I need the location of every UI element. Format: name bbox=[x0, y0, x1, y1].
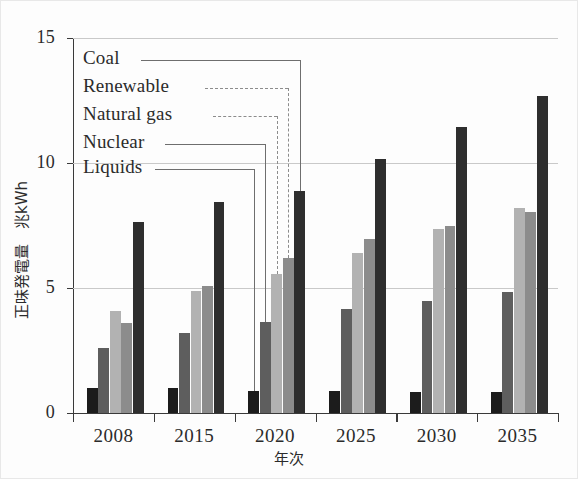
y-tick-label-15: 15 bbox=[15, 27, 55, 48]
callout-leader-v-nuclear bbox=[265, 144, 266, 322]
bar-natural-gas-2025 bbox=[352, 253, 363, 413]
x-tick-mark-2020 bbox=[235, 413, 236, 422]
gridline-y-15 bbox=[73, 38, 558, 39]
callout-leader-v-coal bbox=[300, 60, 301, 191]
callout-label-liquids: Liquids bbox=[83, 156, 142, 178]
bar-natural-gas-2008 bbox=[110, 311, 121, 414]
x-tick-label-2020: 2020 bbox=[230, 425, 320, 447]
bar-liquids-2015 bbox=[168, 388, 179, 413]
bar-renewable-2030 bbox=[445, 226, 456, 414]
x-tick-label-2025: 2025 bbox=[311, 425, 401, 447]
bar-coal-2025 bbox=[375, 159, 386, 413]
bar-renewable-2025 bbox=[364, 239, 375, 413]
bar-natural-gas-2035 bbox=[514, 208, 525, 413]
bar-natural-gas-2015 bbox=[191, 291, 202, 414]
x-tick-mark-2025 bbox=[316, 413, 317, 422]
bar-nuclear-2020 bbox=[260, 322, 271, 413]
x-tick-mark-end bbox=[558, 413, 559, 422]
callout-label-renewable: Renewable bbox=[83, 75, 169, 97]
bar-nuclear-2035 bbox=[502, 292, 513, 413]
y-tick-label-10: 10 bbox=[15, 152, 55, 173]
x-tick-mark-2035 bbox=[477, 413, 478, 422]
gridline-y-10 bbox=[73, 163, 558, 164]
y-tick-label-0: 0 bbox=[15, 402, 55, 423]
callout-leader-h-liquids bbox=[155, 169, 254, 170]
y-tick-mark-15 bbox=[67, 38, 73, 39]
x-tick-label-2035: 2035 bbox=[473, 425, 563, 447]
bar-nuclear-2015 bbox=[179, 333, 190, 413]
x-tick-mark-2008 bbox=[73, 413, 74, 422]
bar-renewable-2035 bbox=[525, 212, 536, 413]
bar-renewable-2020 bbox=[283, 258, 294, 413]
bar-renewable-2008 bbox=[121, 323, 132, 413]
x-tick-label-2008: 2008 bbox=[68, 425, 158, 447]
bar-coal-2020 bbox=[294, 191, 305, 414]
bar-coal-2030 bbox=[456, 127, 467, 413]
y-tick-mark-5 bbox=[67, 288, 73, 289]
bar-natural-gas-2030 bbox=[433, 229, 444, 413]
x-tick-label-2030: 2030 bbox=[392, 425, 482, 447]
gridline-y-5 bbox=[73, 288, 558, 289]
y-tick-label-5: 5 bbox=[15, 277, 55, 298]
y-axis-title: 正味発電量 兆kWh bbox=[10, 150, 31, 350]
x-axis-title: 年次 bbox=[0, 447, 577, 468]
callout-leader-h-natural-gas bbox=[213, 116, 277, 118]
callout-label-nuclear: Nuclear bbox=[83, 131, 145, 153]
bar-nuclear-2008 bbox=[98, 348, 109, 413]
plot-area: 051015200820152020202520302035CoalRenewa… bbox=[73, 38, 558, 413]
callout-leader-v-renewable bbox=[288, 88, 290, 258]
bar-renewable-2015 bbox=[202, 286, 213, 414]
callout-leader-v-liquids bbox=[254, 169, 255, 391]
callout-leader-h-renewable bbox=[205, 88, 288, 90]
callout-label-coal: Coal bbox=[83, 47, 120, 69]
x-tick-mark-2015 bbox=[154, 413, 155, 422]
bar-natural-gas-2020 bbox=[271, 274, 282, 413]
bar-liquids-2030 bbox=[410, 392, 421, 413]
bar-liquids-2025 bbox=[329, 391, 340, 414]
callout-leader-v-natural-gas bbox=[277, 116, 279, 274]
callout-leader-h-coal bbox=[141, 60, 300, 61]
bar-coal-2008 bbox=[133, 222, 144, 413]
bar-nuclear-2030 bbox=[422, 301, 433, 414]
bar-nuclear-2025 bbox=[341, 309, 352, 413]
callout-label-natural-gas: Natural gas bbox=[83, 103, 172, 125]
bar-liquids-2008 bbox=[87, 388, 98, 413]
bar-liquids-2035 bbox=[491, 392, 502, 413]
bar-coal-2015 bbox=[214, 202, 225, 413]
x-tick-mark-2030 bbox=[396, 413, 397, 422]
y-tick-mark-10 bbox=[67, 163, 73, 164]
callout-leader-h-nuclear bbox=[165, 144, 265, 145]
bar-liquids-2020 bbox=[248, 391, 259, 414]
x-tick-label-2015: 2015 bbox=[149, 425, 239, 447]
bar-coal-2035 bbox=[537, 96, 548, 414]
